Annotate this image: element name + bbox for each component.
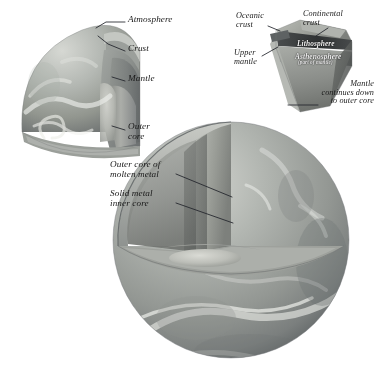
label-outer-core: Outer core [128,122,150,141]
label-solid-metal-inner-core: Solid metal inner core [110,189,153,208]
label-continental-crust: Continental crust [303,10,343,27]
label-lithosphere: Lithosphere [297,40,335,48]
label-outer-core-molten-metal: Outer core of molten metal [110,160,160,179]
label-mantle-continues-down: Mantle continues down to outer core [294,80,374,106]
label-upper-mantle: Upper mantle [234,49,257,66]
label-crust: Crust [128,44,149,54]
label-asthenosphere-note: (part of mantle) [298,60,333,65]
label-atmosphere: Atmosphere [128,15,173,25]
label-oceanic-crust: Oceanic crust [236,12,264,29]
detail-cutaway-globe [22,25,140,158]
inner-core-region [169,249,241,267]
leader-oceanic-crust [268,26,280,31]
diagram-canvas: Atmosphere Crust Mantle Outer core Ocean… [0,0,378,372]
label-mantle: Mantle [128,74,155,84]
